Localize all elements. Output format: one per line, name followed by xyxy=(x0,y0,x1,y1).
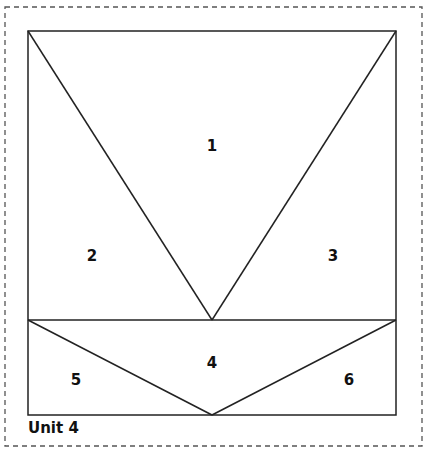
piece-label-6: 6 xyxy=(344,371,354,389)
piece-label-5: 5 xyxy=(71,371,81,389)
piece-label-4: 4 xyxy=(207,354,217,372)
dashed-border xyxy=(5,7,422,446)
quilt-unit-diagram: 1 2 3 4 5 6 Unit 4 xyxy=(0,0,427,453)
piece-label-3: 3 xyxy=(328,247,338,265)
piece-label-2: 2 xyxy=(87,247,97,265)
piece-label-1: 1 xyxy=(207,137,217,155)
unit-title: Unit 4 xyxy=(28,419,79,437)
piece-4-right-edge xyxy=(212,320,396,415)
piece-1-left-edge xyxy=(28,31,212,320)
piece-4-left-edge xyxy=(28,320,212,415)
piece-1-right-edge xyxy=(212,31,396,320)
